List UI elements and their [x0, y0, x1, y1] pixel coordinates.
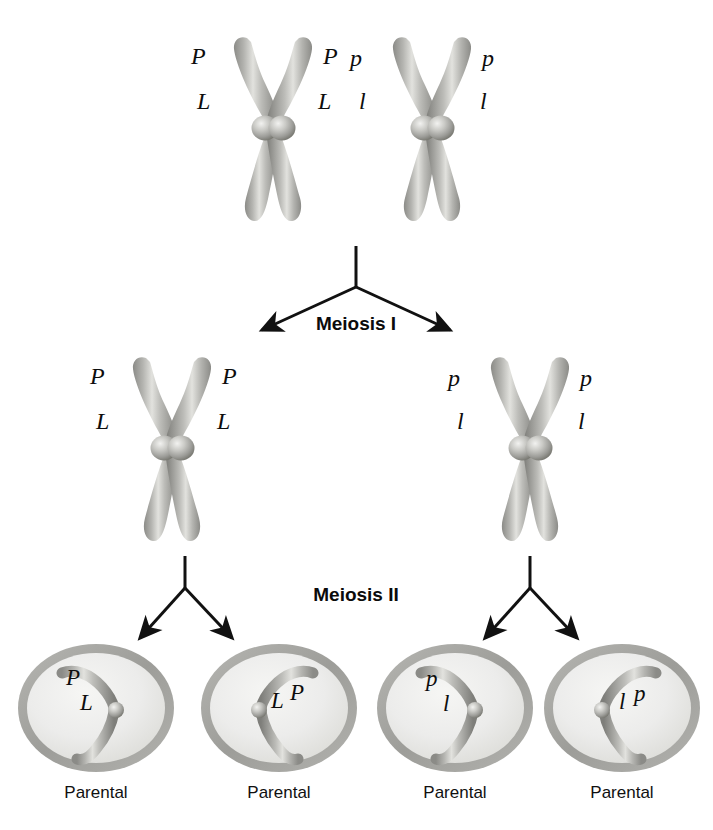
allele-label: l [619, 690, 625, 713]
allele-label: p [634, 682, 646, 705]
allele-label: l [578, 409, 585, 433]
chromosome-shape [372, 32, 492, 227]
allele-label: l [359, 89, 366, 113]
allele-label: p [482, 46, 494, 70]
allele-label: p [448, 366, 460, 390]
gamete-caption: Parental [395, 783, 515, 803]
allele-label: p [580, 366, 592, 390]
allele-label: L [217, 409, 230, 433]
allele-label: p [350, 46, 362, 70]
top-right-tetrad: p p l l [372, 32, 492, 227]
meiosis-diagram: P P L L p p l l Meiosis I [0, 0, 713, 830]
cell-shape [14, 641, 179, 776]
allele-label: L [197, 89, 210, 113]
middle-right-dyad: p p l l [470, 352, 590, 547]
allele-label: p [426, 667, 438, 690]
chromosome-shape [470, 352, 590, 547]
allele-label: L [96, 409, 109, 433]
meiosis-two-label: Meiosis II [281, 584, 431, 606]
allele-label: P [66, 666, 80, 689]
allele-label: l [457, 409, 464, 433]
allele-label: L [80, 691, 93, 714]
cell-shape [373, 641, 538, 776]
gamete-caption: Parental [219, 783, 339, 803]
gamete-caption: Parental [36, 783, 156, 803]
allele-label: P [222, 364, 237, 388]
gamete-cell: L P [197, 641, 362, 776]
allele-label: P [290, 681, 304, 704]
chromosome-shape [112, 352, 232, 547]
gamete-cell: l p [540, 641, 705, 776]
top-left-tetrad: P P L L [213, 32, 333, 227]
allele-label: P [323, 44, 338, 68]
meiosis-one-label: Meiosis I [281, 313, 431, 335]
middle-left-dyad: P P L L [112, 352, 232, 547]
allele-label: L [318, 89, 331, 113]
gamete-caption: Parental [562, 783, 682, 803]
allele-label: l [480, 89, 487, 113]
allele-label: P [191, 44, 206, 68]
chromosome-shape [213, 32, 333, 227]
gamete-cell: P L [14, 641, 179, 776]
allele-label: P [90, 364, 105, 388]
allele-label: l [443, 692, 449, 715]
gamete-cell: p l [373, 641, 538, 776]
allele-label: L [271, 689, 284, 712]
